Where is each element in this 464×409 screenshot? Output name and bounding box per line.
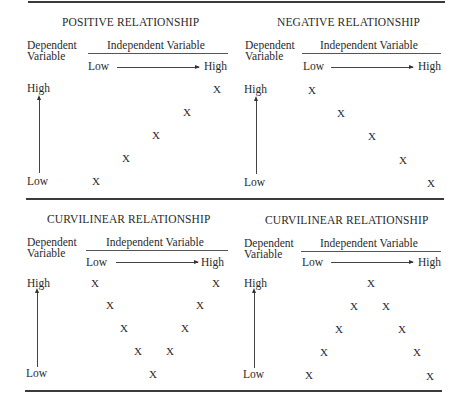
- y-high-label: High: [244, 84, 267, 96]
- independent-label: Independent Variable: [107, 40, 205, 52]
- y-low-label: Low: [243, 369, 264, 381]
- dependent-label-2: Variable: [27, 51, 65, 63]
- data-point: X: [413, 347, 421, 358]
- x-high-label: High: [418, 61, 441, 73]
- x-arrow-icon: [117, 67, 199, 68]
- x-low-label: Low: [86, 257, 107, 269]
- top-rule: [28, 1, 445, 3]
- data-point: X: [152, 130, 160, 141]
- data-point: X: [426, 371, 434, 382]
- data-point: X: [92, 176, 100, 187]
- y-low-label: Low: [26, 368, 47, 380]
- y-low-label: Low: [244, 177, 265, 189]
- data-point: X: [212, 278, 220, 289]
- data-point: X: [427, 178, 435, 189]
- data-point: X: [308, 85, 316, 96]
- independent-label: Independent Variable: [106, 237, 204, 249]
- data-point: X: [120, 323, 128, 334]
- x-high-label: High: [204, 61, 227, 73]
- data-point: X: [181, 323, 189, 334]
- x-arrow-icon: [331, 67, 413, 68]
- data-point: X: [183, 107, 191, 118]
- y-high-label: High: [27, 83, 50, 95]
- dependent-label-2: Variable: [244, 249, 282, 261]
- data-point: X: [350, 301, 358, 312]
- independent-underline: [88, 53, 228, 54]
- x-low-label: Low: [302, 257, 323, 269]
- x-high-label: High: [418, 257, 441, 269]
- y-arrow-icon: [254, 292, 255, 368]
- dependent-label-2: Variable: [245, 51, 283, 63]
- x-low-label: Low: [88, 61, 109, 73]
- data-point: X: [122, 153, 130, 164]
- data-point: X: [213, 84, 221, 95]
- data-point: X: [335, 324, 343, 335]
- panel-title: NEGATIVE RELATIONSHIP: [277, 17, 420, 29]
- data-point: X: [399, 155, 407, 166]
- data-point: X: [149, 369, 157, 380]
- x-low-label: Low: [303, 61, 324, 73]
- data-point: X: [91, 278, 99, 289]
- x-arrow-icon: [331, 262, 413, 263]
- y-arrow-icon: [256, 100, 257, 174]
- panel-title: CURVILINEAR RELATIONSHIP: [265, 215, 428, 227]
- data-point: X: [134, 346, 142, 357]
- y-arrow-icon: [37, 292, 38, 367]
- bottom-rule: [25, 390, 442, 392]
- data-point: X: [382, 301, 390, 312]
- independent-label: Independent Variable: [320, 238, 418, 250]
- panel-title: CURVILINEAR RELATIONSHIP: [47, 214, 210, 226]
- independent-underline: [302, 53, 441, 54]
- y-arrow-icon: [39, 99, 40, 173]
- data-point: X: [196, 300, 204, 311]
- data-point: X: [106, 300, 114, 311]
- y-low-label: Low: [27, 176, 48, 188]
- panel-title: POSITIVE RELATIONSHIP: [62, 17, 199, 29]
- independent-underline: [86, 250, 228, 251]
- x-high-label: High: [201, 257, 224, 269]
- independent-underline: [301, 251, 441, 252]
- data-point: X: [320, 347, 328, 358]
- dependent-label-2: Variable: [27, 248, 65, 260]
- data-point: X: [368, 131, 376, 142]
- independent-label: Independent Variable: [320, 40, 418, 52]
- data-point: X: [337, 108, 345, 119]
- data-point: X: [398, 324, 406, 335]
- x-arrow-icon: [116, 262, 198, 263]
- data-point: X: [367, 278, 375, 289]
- data-point: X: [305, 370, 313, 381]
- data-point: X: [166, 346, 174, 357]
- middle-rule: [26, 198, 444, 200]
